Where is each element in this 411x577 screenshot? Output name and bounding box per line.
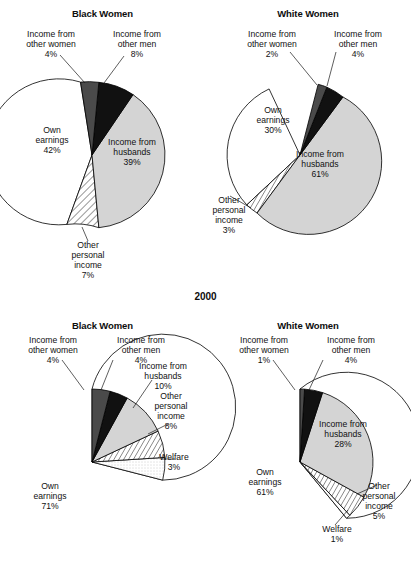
leader-other-men bbox=[104, 56, 124, 83]
label-value: 71% bbox=[20, 502, 80, 512]
label-value: 4% bbox=[315, 50, 401, 60]
label-income-husbands: Income from husbands 61% bbox=[280, 150, 360, 180]
label-value: 4% bbox=[8, 356, 98, 366]
label-income-husbands: Income from husbands 28% bbox=[303, 420, 383, 450]
label-value: 61% bbox=[235, 488, 295, 498]
panel-white-women-top: White Women Income from other women 2% I… bbox=[205, 0, 411, 290]
label-value: 8% bbox=[94, 50, 180, 60]
label-value: 1% bbox=[309, 535, 365, 545]
label-value: 5% bbox=[349, 512, 409, 522]
label-income-other-women: Income from other women 4% bbox=[8, 336, 98, 366]
label-welfare: Welfare 1% bbox=[309, 525, 365, 545]
label-other-personal-income: Other personal income 5% bbox=[349, 482, 409, 522]
panel-black-women-top: Black Women Income from other women 4% I… bbox=[0, 0, 205, 290]
label-value: 2% bbox=[227, 50, 317, 60]
label-income-husbands: Income from husbands 39% bbox=[92, 138, 172, 168]
label-value: 42% bbox=[24, 146, 80, 156]
label-value: 30% bbox=[245, 126, 301, 136]
label-value: 1% bbox=[219, 356, 309, 366]
label-other-personal-income: Other personal income 8% bbox=[141, 392, 201, 432]
label-own-earnings: Own earnings 61% bbox=[235, 468, 295, 498]
label-other-personal-income: Other personal income 7% bbox=[56, 241, 120, 281]
label-value: 4% bbox=[308, 356, 394, 366]
label-other-personal-income: Other personal income 3% bbox=[197, 196, 261, 236]
label-income-other-women: Income from other women 1% bbox=[219, 336, 309, 366]
leader-other-personal bbox=[82, 227, 88, 241]
label-value: 39% bbox=[92, 158, 172, 168]
label-income-other-men: Income from other men 4% bbox=[315, 30, 401, 60]
panel-white-women-2000: White Women Income from other women 1% I… bbox=[205, 320, 411, 577]
label-income-other-men: Income from other men 8% bbox=[94, 30, 180, 60]
label-welfare: Welfare 3% bbox=[146, 453, 202, 473]
label-value: 61% bbox=[280, 170, 360, 180]
label-own-earnings: Own earnings 71% bbox=[20, 482, 80, 512]
label-value: 3% bbox=[146, 463, 202, 473]
label-value: 7% bbox=[56, 271, 120, 281]
label-value: 3% bbox=[197, 226, 261, 236]
label-value: 4% bbox=[6, 50, 96, 60]
label-income-other-women: Income from other women 2% bbox=[227, 30, 317, 60]
label-income-other-women: Income from other women 4% bbox=[6, 30, 96, 60]
label-own-earnings: Own earnings 42% bbox=[24, 126, 80, 156]
label-value: 28% bbox=[303, 440, 383, 450]
label-income-husbands: Income from husbands 10% bbox=[124, 362, 202, 392]
section-label-2000: 2000 bbox=[0, 291, 411, 302]
label-value: 8% bbox=[141, 422, 201, 432]
label-income-other-men: Income from other men 4% bbox=[308, 336, 394, 366]
label-own-earnings: Own earnings 30% bbox=[245, 106, 301, 136]
panel-black-women-2000: Black Women Income from other women 4% I… bbox=[0, 320, 205, 577]
